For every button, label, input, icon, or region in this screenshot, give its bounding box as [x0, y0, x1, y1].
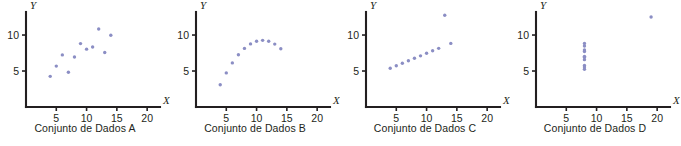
x-axis-label: X — [502, 94, 510, 106]
data-point — [103, 51, 106, 54]
data-point — [219, 83, 222, 86]
anscombe-quartet-figure: 5101520510XYConjunto de Dados A510152051… — [0, 0, 681, 146]
data-point — [237, 53, 240, 56]
data-point — [407, 59, 410, 62]
data-point — [583, 65, 586, 68]
data-point — [649, 15, 652, 18]
y-axis-label: Y — [30, 0, 38, 11]
x-axis-label: X — [162, 94, 170, 106]
y-axis-label: Y — [370, 0, 378, 11]
x-axis-label: X — [332, 94, 340, 106]
data-point — [49, 75, 52, 78]
data-point — [249, 42, 252, 45]
data-point — [67, 71, 70, 74]
data-point — [583, 56, 586, 59]
data-point — [389, 67, 392, 70]
data-point — [91, 45, 94, 48]
data-point-group — [219, 39, 283, 87]
scatter-panel: 5101520510XYConjunto de Dados B — [170, 0, 340, 146]
data-point — [243, 47, 246, 50]
data-point — [109, 34, 112, 37]
scatter-panel: 5101520510XYConjunto de Dados D — [510, 0, 680, 146]
data-point — [583, 48, 586, 51]
data-point — [273, 42, 276, 45]
x-axis-label: X — [672, 94, 680, 106]
y-tick-label: 5 — [353, 65, 359, 77]
data-point — [255, 40, 258, 43]
y-tick-label: 5 — [183, 65, 189, 77]
panel-caption: Conjunto de Dados D — [510, 122, 680, 134]
y-tick-label: 10 — [347, 29, 359, 41]
data-point — [395, 64, 398, 67]
data-point — [425, 52, 428, 55]
data-point — [85, 47, 88, 50]
panel-caption: Conjunto de Dados C — [340, 122, 510, 134]
data-point — [431, 49, 434, 52]
data-point-group — [49, 27, 113, 78]
panel-caption: Conjunto de Dados A — [0, 122, 170, 134]
scatter-panel: 5101520510XYConjunto de Dados A — [0, 0, 170, 146]
y-tick-label: 10 — [177, 29, 189, 41]
data-point — [97, 27, 100, 30]
data-point — [267, 40, 270, 43]
y-tick-label: 5 — [13, 65, 19, 77]
data-point-group — [389, 14, 453, 70]
data-point — [583, 44, 586, 47]
y-tick-label: 10 — [517, 29, 529, 41]
data-point — [419, 54, 422, 57]
data-point — [61, 53, 64, 56]
data-point — [73, 55, 76, 58]
y-axis-label: Y — [540, 0, 548, 11]
data-point — [55, 64, 58, 67]
data-point — [437, 47, 440, 50]
data-point-group — [583, 15, 653, 71]
data-point — [79, 42, 82, 45]
data-point — [261, 39, 264, 42]
data-point — [443, 14, 446, 17]
panel-caption: Conjunto de Dados B — [170, 122, 340, 134]
y-tick-label: 5 — [523, 65, 529, 77]
data-point — [231, 61, 234, 64]
data-point — [279, 47, 282, 50]
y-axis-label: Y — [200, 0, 208, 11]
data-point — [413, 57, 416, 60]
data-point — [449, 42, 452, 45]
data-point — [401, 62, 404, 65]
scatter-panel: 5101520510XYConjunto de Dados C — [340, 0, 510, 146]
data-point — [225, 71, 228, 74]
y-tick-label: 10 — [7, 29, 19, 41]
